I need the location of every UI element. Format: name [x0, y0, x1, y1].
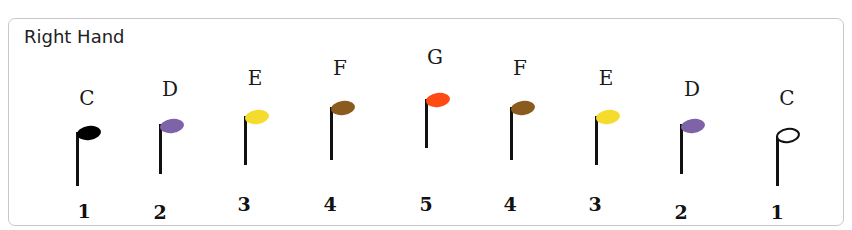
note-stem: [244, 116, 247, 165]
note-letter: D: [684, 77, 700, 101]
panel-title: Right Hand: [24, 26, 125, 47]
finger-number: 1: [77, 200, 90, 222]
finger-number: 5: [419, 193, 432, 215]
note-stem: [595, 116, 598, 165]
note-letter: E: [248, 66, 263, 90]
note-letter: C: [79, 86, 94, 110]
note-stem: [76, 132, 79, 186]
note-letter: F: [513, 56, 527, 80]
note-stem: [680, 124, 683, 174]
note-letter: D: [162, 77, 178, 101]
note-stem: [510, 107, 513, 160]
finger-number: 4: [323, 193, 336, 215]
note-letter: F: [333, 56, 347, 80]
finger-number: 3: [588, 193, 601, 215]
finger-number: 2: [674, 201, 687, 223]
finger-number: 1: [770, 201, 783, 223]
finger-number: 3: [237, 193, 250, 215]
note-stem: [159, 124, 162, 174]
note-stem: [425, 99, 428, 148]
finger-number: 4: [503, 193, 516, 215]
note-stem: [776, 136, 779, 186]
finger-number: 2: [153, 201, 166, 223]
note-letter: G: [427, 45, 443, 69]
note-letter: E: [599, 66, 614, 90]
note-stem: [330, 107, 333, 160]
note-letter: C: [779, 86, 794, 110]
